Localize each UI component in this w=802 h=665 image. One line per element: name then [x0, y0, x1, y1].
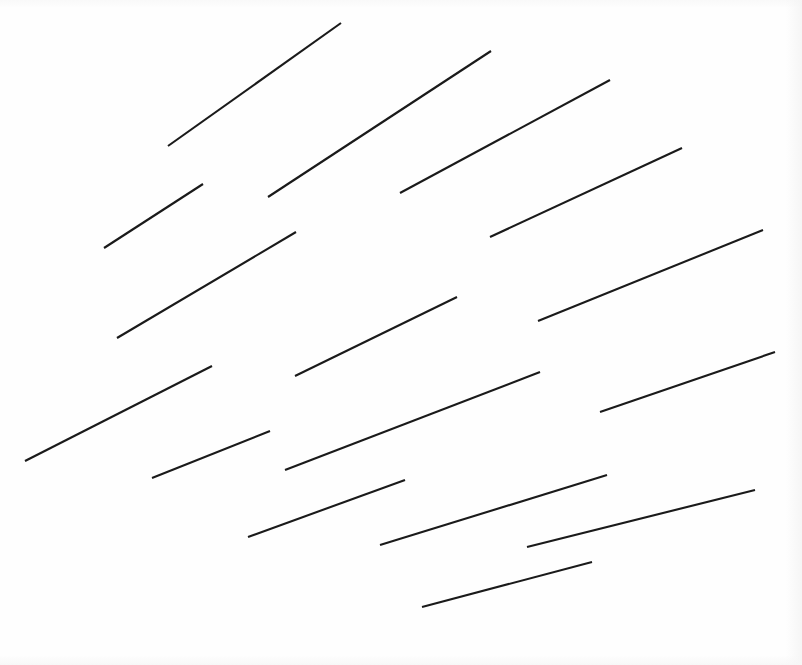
- figure-background: [0, 0, 802, 665]
- figure-root: [0, 0, 802, 665]
- line-segments-canvas: [0, 0, 802, 665]
